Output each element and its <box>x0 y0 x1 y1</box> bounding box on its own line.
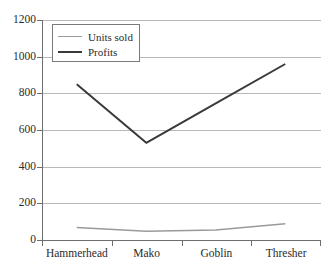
chart-legend: Units sold Profits <box>52 24 140 62</box>
y-tick-mark <box>37 57 42 58</box>
x-tick-mark <box>112 241 113 246</box>
y-tick-mark <box>37 167 42 168</box>
x-tick-mark <box>42 241 43 246</box>
y-tick-label-0: 0 <box>2 234 36 246</box>
y-axis-line <box>42 20 43 241</box>
x-tick-label-mako: Mako <box>112 247 182 260</box>
series-line-profits <box>77 64 286 143</box>
x-tick-label-goblin: Goblin <box>182 247 252 260</box>
gridline-800 <box>42 93 321 94</box>
legend-item-units-sold: Units sold <box>58 29 134 44</box>
y-tick-mark <box>37 20 42 21</box>
y-tick-label-600: 600 <box>2 124 36 136</box>
y-tick-label-200: 200 <box>2 197 36 209</box>
gridline-200 <box>42 203 321 204</box>
y-tick-label-800: 800 <box>2 87 36 99</box>
legend-label-units-sold: Units sold <box>88 31 133 43</box>
line-swatch-units-sold-icon <box>58 36 82 37</box>
x-tick-mark <box>182 241 183 246</box>
x-tick-mark <box>320 241 321 246</box>
y-tick-mark <box>37 130 42 131</box>
series-line-units-sold <box>77 224 286 231</box>
gridline-400 <box>42 167 321 168</box>
line-swatch-profits-icon <box>58 51 82 53</box>
legend-item-profits: Profits <box>58 44 134 59</box>
legend-label-profits: Profits <box>88 46 117 58</box>
y-tick-mark <box>37 93 42 94</box>
gridline-600 <box>42 130 321 131</box>
series-plot-area <box>0 0 336 270</box>
line-chart: 1200 1000 800 600 400 200 0 Hammerhead M… <box>0 0 336 270</box>
y-tick-label-400: 400 <box>2 161 36 173</box>
gridline-1200 <box>42 20 321 21</box>
x-tick-label-thresher: Thresher <box>251 247 321 260</box>
y-tick-mark <box>37 203 42 204</box>
x-tick-label-hammerhead: Hammerhead <box>42 247 112 260</box>
y-tick-label-1000: 1000 <box>2 51 36 63</box>
x-tick-mark <box>251 241 252 246</box>
y-tick-label-1200: 1200 <box>2 14 36 26</box>
